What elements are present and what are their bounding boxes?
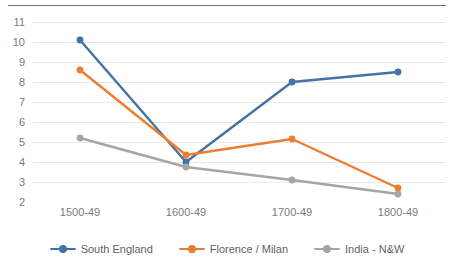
x-axis-tick-label: 1700-49 [272, 206, 312, 219]
data-point-marker [395, 185, 402, 192]
data-point-marker [395, 191, 402, 198]
x-axis-tick-label: 1600-49 [166, 206, 206, 219]
legend-item-1[interactable]: South England [50, 243, 153, 255]
y-axis-tick-label: 9 [19, 57, 25, 68]
data-point-marker [289, 136, 296, 143]
legend-label: India - N&W [345, 243, 404, 255]
x-axis-tick-label: 1500-49 [60, 206, 100, 219]
y-axis-tick-label: 4 [19, 157, 25, 168]
data-point-marker [77, 135, 84, 142]
chart-legend: South EnglandFlorence / MilanIndia - N&W [0, 239, 454, 259]
legend-item-3[interactable]: India - N&W [314, 243, 404, 255]
legend-item-2[interactable]: Florence / Milan [179, 243, 288, 255]
y-axis-tick-label: 2 [19, 197, 25, 208]
top-divider-rule [8, 5, 446, 6]
data-point-marker [395, 69, 402, 76]
legend-marker-icon [59, 245, 67, 253]
y-axis-tick-label: 10 [13, 37, 25, 48]
y-axis-tick-label: 5 [19, 137, 25, 148]
plot-area [33, 22, 445, 202]
y-axis-tick-label: 7 [19, 97, 25, 108]
y-axis-tick-label: 6 [19, 117, 25, 128]
legend-swatch-icon [179, 244, 205, 254]
legend-label: Florence / Milan [210, 243, 288, 255]
legend-marker-icon [323, 245, 331, 253]
legend-marker-icon [188, 245, 196, 253]
legend-swatch-icon [50, 244, 76, 254]
y-axis-tick-label: 8 [19, 77, 25, 88]
data-point-marker [289, 177, 296, 184]
x-axis-tick-label: 1800-49 [378, 206, 418, 219]
series-line [80, 70, 398, 188]
x-axis: 1500-491600-491700-491800-49 [33, 206, 445, 224]
legend-swatch-icon [314, 244, 340, 254]
data-point-marker [183, 152, 190, 159]
line-chart: 234567891011 1500-491600-491700-491800-4… [0, 0, 454, 271]
series-line [80, 40, 398, 162]
y-axis-tick-label: 11 [14, 17, 25, 28]
y-axis-tick-label: 3 [19, 177, 25, 188]
data-point-marker [289, 79, 296, 86]
data-point-marker [77, 67, 84, 74]
y-axis: 234567891011 [0, 22, 29, 202]
data-point-marker [183, 164, 190, 171]
series-lines [33, 22, 445, 202]
legend-label: South England [81, 243, 153, 255]
data-point-marker [77, 37, 84, 44]
